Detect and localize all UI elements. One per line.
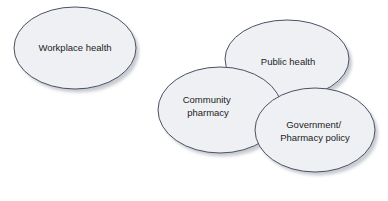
ellipse-government-pharmacy-policy[interactable] (255, 88, 375, 172)
label-community-pharmacy-line1: Community (183, 94, 231, 105)
venn-diagram-canvas: Workplace health Public health Community… (0, 0, 388, 201)
venn-diagram-svg: Workplace health Public health Community… (0, 0, 388, 201)
label-public-health: Public health (261, 56, 315, 67)
ellipse-layer (14, 7, 375, 172)
label-workplace-health: Workplace health (38, 42, 111, 53)
label-government-pharmacy-policy-line2: Pharmacy policy (280, 132, 350, 143)
label-government-pharmacy-policy-line1: Government/ (286, 119, 341, 130)
label-community-pharmacy-line2: pharmacy (187, 107, 229, 118)
